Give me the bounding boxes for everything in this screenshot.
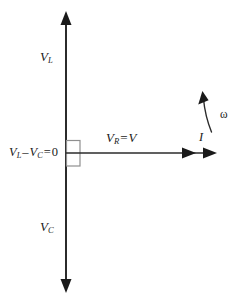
label-v-r-equals-v: VR=V: [106, 131, 137, 144]
vlvc-second-subscript: C: [37, 151, 43, 160]
label-omega: ω: [220, 109, 228, 121]
label-v-l-minus-v-c-equals-zero: VL–VC=0: [9, 146, 58, 159]
label-v-c: VC: [40, 220, 54, 233]
vlvc-value: 0: [52, 145, 58, 159]
label-v-c-symbol: V: [40, 219, 48, 234]
angular-velocity-arc-path: [204, 99, 212, 132]
vlvc-equals-operator: =: [43, 145, 52, 159]
phasor-diagram: VL VC VL–VC=0 VR=V I ω: [0, 0, 239, 305]
current-vector-arrowhead: [203, 148, 217, 159]
vertical-axis-down-arrowhead: [61, 279, 72, 293]
vlvc-second-symbol: V: [29, 145, 37, 159]
label-v-l-symbol: V: [40, 49, 48, 64]
vr-rhs-symbol: V: [129, 130, 137, 145]
label-v-c-subscript: C: [48, 225, 54, 235]
vertical-axis-up-arrowhead: [61, 11, 72, 25]
vr-symbol: V: [106, 130, 114, 145]
label-v-l: VL: [40, 50, 53, 63]
vlvc-first-symbol: V: [9, 145, 17, 159]
vr-equals-operator: =: [119, 130, 128, 145]
label-current: I: [199, 131, 203, 144]
vr-subscript: R: [114, 136, 119, 146]
vlvc-first-subscript: L: [17, 151, 22, 160]
label-v-l-subscript: L: [48, 55, 53, 65]
vr-vector-arrowhead: [182, 148, 196, 159]
